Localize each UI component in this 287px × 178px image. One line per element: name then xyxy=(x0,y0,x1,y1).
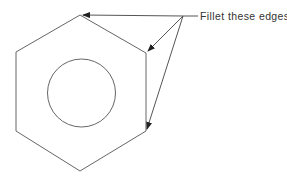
center-hole-circle xyxy=(48,59,116,127)
arrow-to-lower-right-edge xyxy=(147,16,183,129)
hex-nut-diagram xyxy=(0,0,287,178)
arrow-to-top-edge xyxy=(83,15,183,16)
hexagon-outline xyxy=(16,15,146,171)
fillet-annotation-label: Fillet these edges xyxy=(200,9,287,23)
